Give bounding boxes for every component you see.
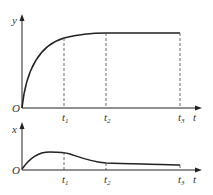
top-graph: y O t1 t2 t3 t bbox=[11, 14, 202, 125]
t3-label: t3 bbox=[178, 111, 185, 125]
x-axis-arrow-icon bbox=[20, 122, 25, 129]
t-axis-label: t bbox=[193, 111, 197, 123]
x-curve bbox=[22, 152, 180, 169]
y-axis-arrow-icon bbox=[20, 14, 25, 21]
t-axis-label: t bbox=[193, 173, 197, 185]
t-axis-arrow-icon bbox=[195, 168, 202, 173]
t-axis-arrow-icon bbox=[195, 106, 202, 111]
t2-label: t2 bbox=[104, 173, 111, 187]
motion-graphs: y O t1 t2 t3 t x O t1 t2 t3 t bbox=[0, 0, 213, 195]
t1-label: t1 bbox=[62, 173, 69, 187]
t2-label: t2 bbox=[104, 111, 111, 125]
t1-label: t1 bbox=[62, 111, 69, 125]
y-label: y bbox=[11, 14, 17, 26]
origin-label: O bbox=[12, 102, 20, 114]
t3-label: t3 bbox=[178, 173, 185, 187]
bottom-graph: x O t1 t2 t3 t bbox=[11, 122, 202, 187]
y-curve bbox=[22, 33, 180, 108]
x-label: x bbox=[11, 123, 17, 135]
origin-label: O bbox=[12, 164, 20, 176]
